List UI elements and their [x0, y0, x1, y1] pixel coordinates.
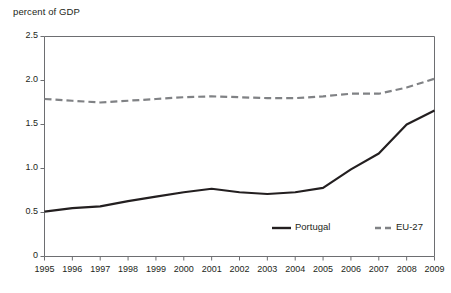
y-axis-tick-label: 0 [12, 250, 38, 260]
x-axis-tick-label: 1998 [113, 264, 143, 274]
x-axis-tick-label: 2005 [308, 264, 338, 274]
plot-frame [45, 37, 435, 257]
x-axis-tick-label: 2006 [336, 264, 366, 274]
x-axis-tick-label: 2007 [364, 264, 394, 274]
x-axis-tick-label: 1999 [141, 264, 171, 274]
chart-container: percent of GDP 00.51.01.52.02.5 19951996… [0, 0, 451, 293]
x-axis-tick-label: 1996 [57, 264, 87, 274]
legend-label-eu-27: EU-27 [396, 221, 423, 232]
data-series [45, 79, 435, 212]
legend-label-portugal: Portugal [295, 221, 330, 232]
plot-border [45, 37, 435, 257]
x-axis-tick-label: 1997 [85, 264, 115, 274]
plot-area [0, 0, 451, 293]
y-axis-tick-label: 2.5 [12, 30, 38, 40]
x-axis-tick-label: 2001 [197, 264, 227, 274]
x-axis-tick-label: 2002 [225, 264, 255, 274]
x-axis-tick-label: 2008 [392, 264, 422, 274]
x-axis-tick-label: 2004 [280, 264, 310, 274]
y-axis-tick-label: 1.0 [12, 162, 38, 172]
x-axis-tick-label: 2003 [252, 264, 282, 274]
x-axis-tick-label: 1995 [30, 264, 60, 274]
y-axis-tick-label: 1.5 [12, 118, 38, 128]
series-line-eu-27 [45, 79, 435, 103]
y-axis-tick-label: 0.5 [12, 206, 38, 216]
y-axis-title: percent of GDP [13, 6, 80, 17]
y-axis-tick-label: 2.0 [12, 74, 38, 84]
series-line-portugal [45, 110, 435, 211]
x-axis-tick-label: 2009 [420, 264, 450, 274]
x-axis-tick-label: 2000 [169, 264, 199, 274]
